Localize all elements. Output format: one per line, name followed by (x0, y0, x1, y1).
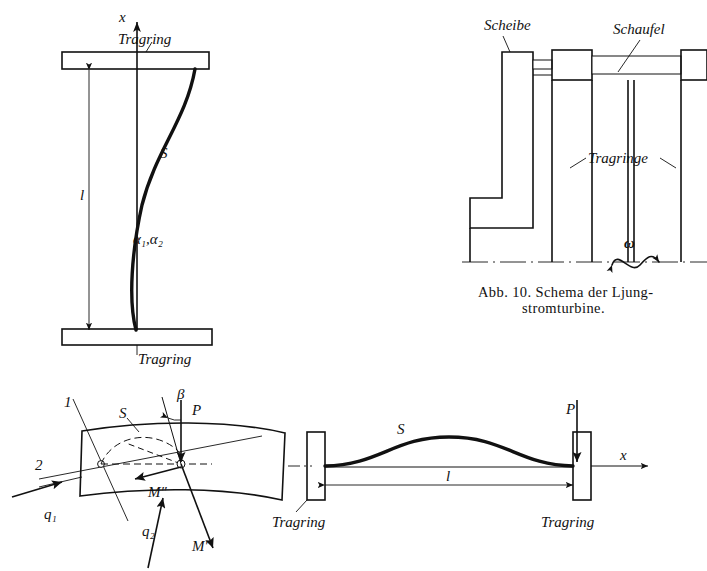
label-tragring-top: Tragring (118, 31, 172, 47)
support-top (62, 52, 209, 69)
disc-scheibe (470, 52, 533, 228)
caption-line-2: stromturbine. (522, 300, 605, 316)
label-tragring-bottom: Tragring (138, 351, 192, 367)
beta-angle-arc (168, 418, 181, 420)
label-axis-1: 1 (64, 394, 72, 410)
label-tragring-left: Tragring (272, 514, 326, 530)
turbine-scheme-figure: Scheibe Schaufel Tragringe ω Abb. 10. Sc… (462, 17, 707, 316)
label-span-l: l (446, 468, 450, 484)
caption-line-1: Abb. 10. Schema der Ljung- (478, 284, 654, 300)
label-q2: q₂ (142, 523, 155, 539)
ring-block-1 (552, 50, 592, 262)
load-q1-arrow (12, 482, 62, 497)
axis2-tail (39, 477, 82, 487)
label-m-double-prime: M″ (147, 484, 167, 500)
leader-support-left (296, 500, 307, 512)
label-scheibe: Scheibe (484, 17, 531, 33)
beam-deflection-curve (325, 437, 573, 466)
blade-schaufel (592, 56, 681, 74)
label-alpha-angles: α₁,α₂ (133, 231, 163, 247)
label-tragringe: Tragringe (588, 150, 648, 166)
support-right-block (573, 432, 591, 500)
deflection-curve-s (132, 69, 195, 330)
label-tragring-right: Tragring (541, 514, 595, 530)
label-beam-curve-s: S (397, 421, 405, 437)
support-left-block (307, 432, 325, 500)
axis-centerline (462, 256, 707, 267)
label-beta: β (176, 386, 185, 402)
label-curve-s: S (160, 145, 168, 161)
technical-figure-canvas: x l S α₁,α₂ Tragring Tragring (0, 0, 707, 571)
figure-root: x l S α₁,α₂ Tragring Tragring (0, 0, 707, 571)
beam-span-figure: S P x l Tragring Tragring (272, 400, 648, 530)
leader-scheibe (503, 36, 510, 52)
label-x-axis: x (118, 9, 126, 25)
leader-tragringe-right (660, 158, 676, 168)
label-omega: ω (624, 235, 635, 251)
label-axis-2: 2 (35, 457, 43, 473)
label-section-s: S (119, 405, 127, 421)
leader-tragringe-left (570, 158, 586, 168)
disc-web (533, 60, 552, 69)
ring-block-2 (681, 50, 707, 262)
label-q1: q₁ (44, 506, 57, 522)
label-beam-x-axis: x (619, 447, 627, 463)
label-schaufel: Schaufel (613, 21, 665, 37)
label-force-p: P (191, 402, 201, 418)
label-m-prime: M′ (191, 538, 208, 554)
left-blade-figure: x l S α₁,α₂ Tragring Tragring (62, 9, 212, 367)
cross-section-figure: 1 2 S β P M″ M′ q₁ q₂ (12, 386, 285, 568)
label-beam-force-p: P (565, 401, 575, 417)
label-length-l: l (80, 187, 84, 203)
